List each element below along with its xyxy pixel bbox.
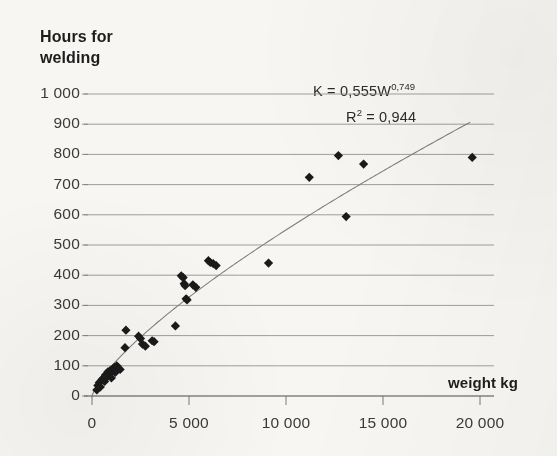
data-point [264, 259, 273, 268]
y-tick-label: 200 [18, 326, 80, 344]
data-point [171, 321, 180, 330]
y-tick-label: 800 [18, 144, 80, 162]
y-tick-label: 0 [18, 386, 80, 404]
data-point [342, 212, 351, 221]
y-tick-label: 600 [18, 205, 80, 223]
x-tick-label: 5 000 [144, 414, 234, 432]
data-point [121, 326, 130, 335]
data-point [305, 173, 314, 182]
x-tick-label: 20 000 [435, 414, 525, 432]
y-tick-label: 400 [18, 265, 80, 283]
y-tick-label: 700 [18, 175, 80, 193]
trendline [92, 122, 470, 396]
data-point [334, 151, 343, 160]
data-point [120, 343, 129, 352]
x-tick-label: 0 [47, 414, 137, 432]
x-tick-label: 15 000 [338, 414, 428, 432]
y-tick-label: 500 [18, 235, 80, 253]
y-tick-label: 900 [18, 114, 80, 132]
data-point [359, 159, 368, 168]
y-tick-label: 100 [18, 356, 80, 374]
x-tick-label: 10 000 [241, 414, 331, 432]
chart-figure: Hours forwelding weight kg K = 0,555W0,7… [0, 0, 557, 456]
plot-area [0, 0, 557, 456]
y-tick-label: 1 000 [18, 84, 80, 102]
y-tick-label: 300 [18, 295, 80, 313]
